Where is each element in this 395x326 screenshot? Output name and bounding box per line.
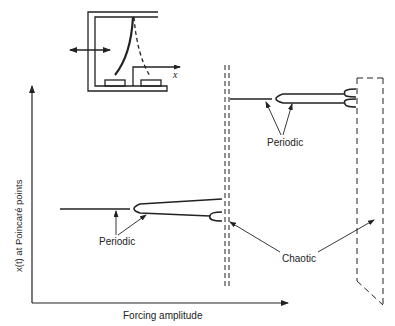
- magnet-left-icon: [105, 80, 125, 86]
- beam-buckled: [115, 17, 133, 75]
- inset-x-label: x: [172, 69, 178, 80]
- bifurcation-diagram: x x(t) at Poincaré points Forcing amplit…: [0, 0, 395, 326]
- annotation-arrows: [116, 102, 374, 252]
- lower-branch: [60, 199, 222, 221]
- y-axis-label: x(t) at Poincaré points: [13, 179, 24, 272]
- periodic-label-upper: Periodic: [267, 137, 303, 148]
- chaotic-boundary-2: [357, 78, 383, 305]
- x-axis-label: Forcing amplitude: [123, 310, 203, 321]
- chaotic-label: Chaotic: [282, 253, 316, 264]
- axes: [32, 86, 288, 303]
- inset-apparatus: [70, 12, 180, 91]
- upper-branch: [230, 89, 356, 107]
- periodic-label-lower: Periodic: [99, 236, 135, 247]
- chaotic-boundary-1: [225, 65, 229, 288]
- magnet-right-icon: [141, 80, 161, 86]
